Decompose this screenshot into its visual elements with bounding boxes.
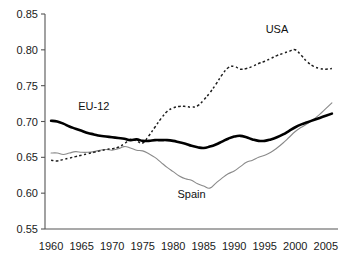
x-tick-label: 1980 (161, 240, 185, 252)
series-line-eu-12 (51, 114, 332, 148)
series-label-usa: USA (266, 23, 289, 35)
x-tick-label: 1970 (100, 240, 124, 252)
series-lines (51, 50, 332, 189)
x-tick-label: 1985 (191, 240, 215, 252)
x-tick-label: 1995 (253, 240, 277, 252)
y-tick-label: 0.75 (17, 80, 38, 92)
series-annotations: EU-12SpainUSA (78, 23, 289, 200)
y-axis: 0.550.600.650.700.750.800.85 (17, 8, 45, 235)
line-chart: 0.550.600.650.700.750.800.85 19601965197… (0, 0, 348, 265)
x-tick-label: 2000 (283, 240, 307, 252)
y-tick-label: 0.70 (17, 116, 38, 128)
y-tick-label: 0.55 (17, 223, 38, 235)
y-tick-label: 0.65 (17, 151, 38, 163)
x-tick-label: 1960 (39, 240, 63, 252)
chart-canvas: 0.550.600.650.700.750.800.85 19601965197… (0, 0, 348, 265)
y-tick-label: 0.60 (17, 187, 38, 199)
x-tick-label: 1990 (222, 240, 246, 252)
y-tick-label: 0.80 (17, 44, 38, 56)
x-tick-label: 1965 (69, 240, 93, 252)
y-tick-label: 0.85 (17, 8, 38, 20)
series-label-eu-12: EU-12 (78, 100, 109, 112)
x-tick-label: 1975 (130, 240, 154, 252)
x-axis: 1960196519701975198019851990199520002005 (39, 229, 338, 252)
series-label-spain: Spain (177, 188, 205, 200)
x-tick-label: 2005 (314, 240, 338, 252)
